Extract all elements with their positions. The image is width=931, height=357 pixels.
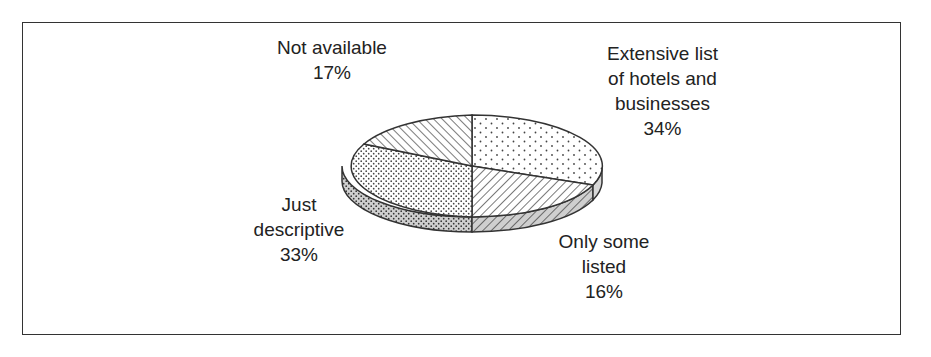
label-extensive-list: Extensive list of hotels and businesses … (590, 41, 735, 141)
pie-chart (0, 0, 931, 357)
label-percent: 17% (263, 60, 401, 85)
label-percent: 16% (545, 279, 663, 304)
label-text: of hotels and (590, 66, 735, 91)
label-text: Extensive list (590, 41, 735, 66)
label-text: listed (545, 254, 663, 279)
label-just-descriptive: Just descriptive 33% (240, 192, 358, 267)
label-only-some-listed: Only some listed 16% (545, 229, 663, 304)
label-text: Only some (545, 229, 663, 254)
label-not-available: Not available 17% (263, 35, 401, 85)
label-text: descriptive (240, 217, 358, 242)
label-text: Just (240, 192, 358, 217)
label-text: businesses (590, 91, 735, 116)
label-percent: 34% (590, 116, 735, 141)
label-percent: 33% (240, 242, 358, 267)
label-text: Not available (263, 35, 401, 60)
